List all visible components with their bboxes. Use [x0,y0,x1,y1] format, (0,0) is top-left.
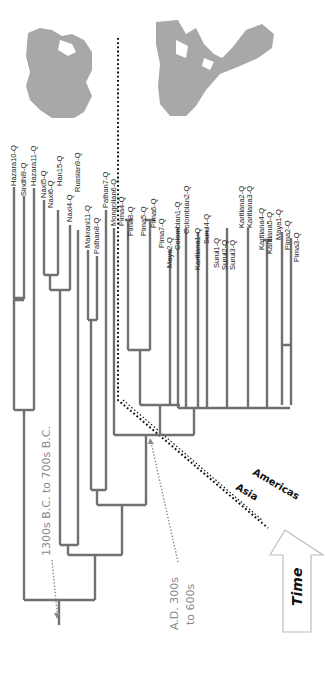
leaf-label: Naxi6-Q [46,180,55,208]
leaf-label: Pathan8-Q [92,218,101,254]
leaf-label: Pima4-Q [117,196,126,226]
svg-text:1300s B.C. to 700s B.C.: 1300s B.C. to 700s B.C. [40,426,53,556]
time-arrow: Time [270,530,323,632]
americas-map [156,20,274,116]
phylogenetic-tree-figure: Hazara10-Q Sindhi9-Q Hazara11-Q Naxi5-Q … [0,0,325,679]
leaf-label: Maya1-Q [274,209,283,240]
leaf-label: Colombian1-Q [173,201,182,250]
asia-map [26,28,92,118]
leaf-label: Pima5-Q [139,206,148,236]
leaf-label: Pima8-Q [126,206,135,236]
leaf-label: Pima2-Q [283,220,292,250]
arrowhead-icon [148,438,154,444]
asia-americas-divider [118,38,268,528]
leaf-label: Han15-Q [55,155,64,186]
leaf-label: Karitiana1-Q [193,228,202,270]
date-annotation-old: 1300s B.C. to 700s B.C. [40,426,60,619]
leaf-label: Hazara10-Q [9,145,18,186]
tree-branches [14,187,291,625]
leaf-label: Karitiana5-Q [265,212,274,254]
leaf-label: Naxi4-Q [65,194,74,222]
leaf-labels: Hazara10-Q Sindhi9-Q Hazara11-Q Naxi5-Q … [9,145,301,270]
region-label-americas: Americas [251,466,302,502]
date-annotation-young: A.D. 300s to 600s [148,438,197,630]
svg-text:to 600s: to 600s [184,583,197,625]
leaf-label: Surui4-Q [202,214,211,244]
leaf-label: Colombian2-Q [182,185,191,234]
leaf-label: Makrani11-Q [83,205,92,248]
svg-text:Time: Time [289,568,305,606]
leaf-label: Russian9-Q [73,152,82,192]
svg-text:A.D. 300s: A.D. 300s [168,577,181,630]
leaf-label: Surui3-Q [228,240,237,270]
leaf-label: Sindhi9-Q [19,162,28,196]
leaf-label: Pima3-Q [292,232,301,262]
region-labels: Asia Americas [234,466,302,502]
leaf-label: Karitiana3-Q [245,186,254,228]
leaf-label: Hazara11-Q [29,146,38,186]
